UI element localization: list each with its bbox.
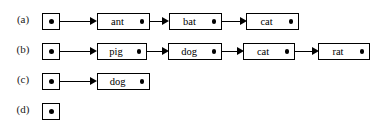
node-value: bat xyxy=(170,15,209,28)
node-value: rat xyxy=(319,45,357,58)
arrow-b-4 xyxy=(295,46,318,57)
next-pointer-dot xyxy=(285,49,290,54)
arrow-b-3 xyxy=(222,46,243,57)
next-pointer-dot xyxy=(140,79,145,84)
next-pointer-dot xyxy=(360,49,365,54)
arrow-c-1 xyxy=(60,76,97,87)
arrow-a-2 xyxy=(150,16,167,27)
head-pointer-box-a xyxy=(42,13,60,30)
row-label-a: (a) xyxy=(10,13,36,26)
linked-list-diagram: (a) ant bat cat (b) xyxy=(0,0,376,130)
row-label-b: (b) xyxy=(10,43,36,56)
diagram-row-c: (c) dog xyxy=(0,69,376,99)
head-pointer-box-b xyxy=(42,43,60,60)
node-box-c-1: dog xyxy=(97,73,150,90)
arrow-head-icon xyxy=(90,47,97,55)
pointer-dot xyxy=(49,109,54,114)
arrow-shaft xyxy=(60,81,90,82)
arrow-a-1 xyxy=(60,16,97,27)
node-value: cat xyxy=(244,45,282,58)
head-pointer-box-c xyxy=(42,73,60,90)
next-pointer-dot xyxy=(212,49,217,54)
arrow-head-icon xyxy=(90,17,97,25)
node-box-a-2: bat xyxy=(169,13,222,30)
node-box-a-1: ant xyxy=(97,13,150,30)
arrow-shaft xyxy=(147,51,162,52)
next-pointer-dot xyxy=(140,19,145,24)
node-box-b-2: dog xyxy=(168,43,222,60)
diagram-row-b: (b) pig dog cat xyxy=(0,39,376,69)
arrow-shaft xyxy=(295,51,312,52)
next-pointer-dot xyxy=(289,19,294,24)
head-pointer-box-d xyxy=(42,103,60,120)
node-box-a-3: cat xyxy=(246,13,299,30)
arrow-a-3 xyxy=(222,16,246,27)
node-box-b-3: cat xyxy=(243,43,295,60)
diagram-row-d: (d) xyxy=(0,99,376,129)
arrow-shaft xyxy=(222,51,237,52)
arrow-head-icon xyxy=(90,77,97,85)
node-value: cat xyxy=(247,15,286,28)
node-value: ant xyxy=(98,15,137,28)
row-label-d: (d) xyxy=(10,103,36,116)
node-value: dog xyxy=(98,75,137,88)
next-pointer-dot xyxy=(137,49,142,54)
arrow-head-icon xyxy=(162,17,169,25)
row-label-c: (c) xyxy=(10,73,36,86)
arrow-b-2 xyxy=(147,46,168,57)
node-value: dog xyxy=(169,45,209,58)
arrow-shaft xyxy=(60,51,90,52)
diagram-row-a: (a) ant bat cat xyxy=(0,9,376,39)
pointer-dot xyxy=(49,19,54,24)
node-value: pig xyxy=(98,45,134,58)
node-box-b-4: rat xyxy=(318,43,370,60)
arrow-shaft xyxy=(222,21,240,22)
arrow-shaft xyxy=(60,21,90,22)
pointer-dot xyxy=(49,79,54,84)
pointer-dot xyxy=(49,49,54,54)
node-box-b-1: pig xyxy=(97,43,147,60)
next-pointer-dot xyxy=(212,19,217,24)
arrow-shaft xyxy=(150,21,162,22)
arrow-b-1 xyxy=(60,46,97,57)
